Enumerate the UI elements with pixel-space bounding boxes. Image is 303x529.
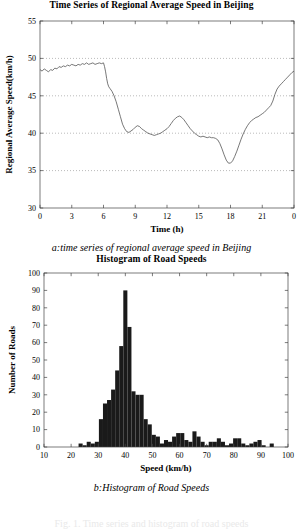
panel-b-histogram: Histogram of Road Speeds 102030405060708… xyxy=(0,254,303,494)
svg-text:18: 18 xyxy=(227,212,235,221)
svg-text:Number of Roads: Number of Roads xyxy=(7,326,17,394)
svg-text:30: 30 xyxy=(28,204,36,213)
svg-text:80: 80 xyxy=(32,304,40,313)
svg-text:50: 50 xyxy=(32,356,40,365)
svg-text:3: 3 xyxy=(70,212,74,221)
svg-text:40: 40 xyxy=(28,129,36,138)
svg-text:90: 90 xyxy=(257,451,265,460)
svg-text:12: 12 xyxy=(163,212,171,221)
svg-text:10: 10 xyxy=(32,425,40,434)
svg-text:30: 30 xyxy=(32,391,40,400)
histogram-chart: 1020304050607080901000102030405060708090… xyxy=(0,265,303,481)
svg-text:Regional Average Speed(km/h): Regional Average Speed(km/h) xyxy=(4,55,14,173)
svg-text:Speed (km/h): Speed (km/h) xyxy=(140,463,191,473)
svg-text:90: 90 xyxy=(32,286,40,295)
svg-text:45: 45 xyxy=(28,92,36,101)
svg-text:15: 15 xyxy=(195,212,203,221)
svg-text:0: 0 xyxy=(38,212,42,221)
svg-text:Time (h): Time (h) xyxy=(150,224,183,234)
panel-a-caption: a:time series of regional average speed … xyxy=(0,241,303,254)
svg-text:40: 40 xyxy=(121,451,129,460)
svg-text:30: 30 xyxy=(94,451,102,460)
timeseries-chart: 0369121518210303540455055Time (h)Regiona… xyxy=(0,11,303,241)
svg-text:20: 20 xyxy=(32,408,40,417)
svg-text:9: 9 xyxy=(133,212,137,221)
svg-text:50: 50 xyxy=(148,451,156,460)
svg-text:50: 50 xyxy=(28,54,36,63)
svg-text:20: 20 xyxy=(67,451,75,460)
svg-text:10: 10 xyxy=(40,451,48,460)
panel-a-timeseries: Time Series of Regional Average Speed in… xyxy=(0,0,303,254)
panel-a-plot: 0369121518210303540455055Time (h)Regiona… xyxy=(0,11,303,241)
svg-text:40: 40 xyxy=(32,373,40,382)
panel-b-caption: b:Histogram of Road Speeds xyxy=(0,481,303,494)
svg-text:60: 60 xyxy=(176,451,184,460)
svg-text:60: 60 xyxy=(32,338,40,347)
svg-text:6: 6 xyxy=(102,212,106,221)
svg-text:21: 21 xyxy=(258,212,266,221)
svg-text:100: 100 xyxy=(28,269,40,278)
svg-text:70: 70 xyxy=(203,451,211,460)
svg-text:0: 0 xyxy=(292,212,296,221)
svg-text:0: 0 xyxy=(36,443,40,452)
panel-b-plot: 1020304050607080901000102030405060708090… xyxy=(0,265,303,481)
svg-text:55: 55 xyxy=(28,17,36,26)
svg-text:70: 70 xyxy=(32,321,40,330)
svg-text:100: 100 xyxy=(282,451,294,460)
svg-text:80: 80 xyxy=(230,451,238,460)
figure-footer-partial: Fig. 1. Time series and histogram of roa… xyxy=(0,518,303,529)
svg-text:35: 35 xyxy=(28,166,36,175)
panel-a-title: Time Series of Regional Average Speed in… xyxy=(0,0,303,11)
panel-b-title: Histogram of Road Speeds xyxy=(0,254,303,265)
